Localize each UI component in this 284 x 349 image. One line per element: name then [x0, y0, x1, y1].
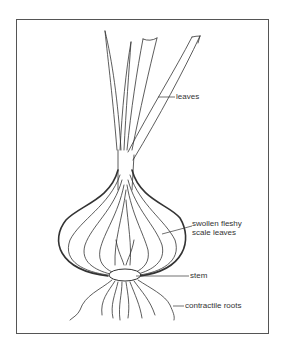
leaves-illustration: [105, 31, 200, 190]
label-stem: stem: [190, 271, 207, 280]
roots-illustration: [70, 280, 174, 320]
label-scale-leaves-line1: swollen fleshy: [192, 219, 242, 228]
scale-leaves-illustration: [59, 170, 186, 276]
onion-bulb-drawing: [0, 0, 284, 349]
label-leaves: leaves: [176, 92, 199, 101]
label-contractile-roots: contractile roots: [185, 301, 241, 310]
label-scale-leaves-line2: scale leaves: [192, 228, 236, 237]
stem-illustration: [109, 269, 141, 281]
